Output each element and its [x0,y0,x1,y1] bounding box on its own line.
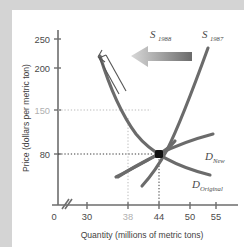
guide-lines [58,110,162,204]
x-tick-label-50: 50 [185,212,195,222]
y-axis-title: Price (dollars per metric ton) [21,64,31,172]
supply-shift-arrow [131,46,192,67]
curve-label-s-1988-sub: 1988 [158,35,172,42]
y-tick-label-150: 150 [34,106,50,116]
curve-s-1987[interactable] [142,48,208,186]
x-tick-labels: 0 30 38 44 50 55 [51,212,221,222]
curve-label-d-original-main: D [191,178,200,190]
y-tick-label-250: 250 [34,35,50,45]
x-tick-label-30: 30 [82,212,92,222]
curve-label-d-new-sub: New [212,157,225,164]
curve-label-s-1988: S 1988 [150,28,172,42]
y-tick-label-200: 200 [34,64,50,74]
economics-supply-demand-chart: 250 200 150 80 0 30 38 44 50 55 Quantity… [12,10,244,247]
x-tick-label-55: 55 [211,212,221,222]
curve-label-d-original: D Original [191,178,223,192]
equilibrium-point[interactable] [155,150,163,158]
curves [100,48,213,186]
y-tick-labels: 250 200 150 80 [34,35,50,160]
x-tick-label-44: 44 [154,212,164,222]
curve-label-d-original-sub: Original [200,185,223,192]
y-tick-label-80: 80 [40,150,50,160]
curve-label-s-1987-sub: 1987 [210,35,224,42]
x-tick-label-0: 0 [51,212,56,222]
figure-root: 250 200 150 80 0 30 38 44 50 55 Quantity… [0,0,244,247]
curve-label-s-1987-main: S [202,28,208,40]
x-tick-label-38: 38 [123,212,133,222]
figure-panel: 250 200 150 80 0 30 38 44 50 55 Quantity… [12,10,244,247]
x-axis-break-icon [62,199,72,209]
curve-label-d-new-main: D [204,150,213,162]
x-axis-title: Quantity (millions of metric tons) [81,230,204,240]
curve-label-s-1988-main: S [150,28,156,40]
curve-label-d-new: D New [204,150,225,164]
curve-label-s-1987: S 1987 [202,28,224,42]
